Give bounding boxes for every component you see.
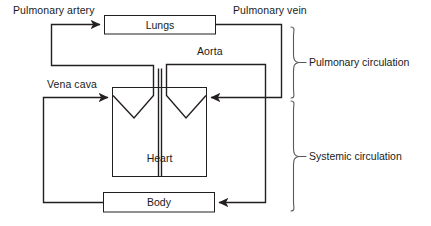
circulation-diagram: Lungs Heart Body Pulmonary artery Pulmon… — [0, 0, 431, 226]
vena-cava-path — [44, 98, 109, 203]
body-label: Body — [103, 196, 215, 208]
diagram-canvas — [0, 0, 431, 226]
lungs-label: Lungs — [104, 19, 216, 31]
systemic-circulation-brace — [291, 101, 299, 211]
pulmonary-circulation-brace — [291, 27, 299, 98]
pulmonary-artery-label: Pulmonary artery — [13, 4, 95, 16]
systemic-circulation-label: Systemic circulation — [309, 150, 402, 162]
pulmonary-vein-path — [211, 25, 282, 98]
vena-cava-label: Vena cava — [47, 78, 97, 90]
aorta-label: Aorta — [197, 45, 223, 57]
heart-label: Heart — [112, 152, 207, 164]
pulmonary-vein-label: Pulmonary vein — [233, 4, 307, 16]
pulmonary-circulation-label: Pulmonary circulation — [309, 56, 409, 68]
